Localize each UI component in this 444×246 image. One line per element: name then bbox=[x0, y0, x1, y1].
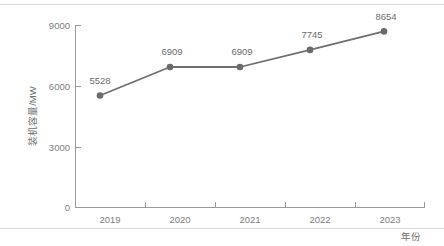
data-label-2023: 8654 bbox=[375, 11, 396, 22]
data-label-2022: 7745 bbox=[301, 29, 322, 40]
y-axis-title: 装机容量/MW bbox=[27, 86, 38, 146]
x-axis-title: 年份 bbox=[401, 231, 421, 242]
data-point-2021[interactable] bbox=[237, 64, 244, 71]
y-tick-label-6000: 6000 bbox=[49, 81, 70, 92]
x-tick-label-2023: 2023 bbox=[379, 214, 400, 225]
data-label-2019: 5528 bbox=[89, 75, 110, 86]
data-line-series bbox=[100, 31, 384, 95]
x-tick-label-2021: 2021 bbox=[239, 214, 260, 225]
data-label-2020: 6909 bbox=[161, 46, 182, 57]
data-label-2021: 6909 bbox=[231, 46, 252, 57]
x-tick-label-2019: 2019 bbox=[99, 214, 120, 225]
data-point-2022[interactable] bbox=[307, 47, 314, 54]
data-point-2019[interactable] bbox=[97, 92, 104, 99]
data-markers bbox=[97, 28, 388, 99]
x-axis-ticks bbox=[146, 202, 425, 208]
data-point-2020[interactable] bbox=[167, 64, 174, 71]
line-chart: 9000 6000 3000 0 装机容量/MW 2019 2020 2021 … bbox=[0, 0, 444, 246]
y-axis-ticks bbox=[76, 26, 82, 208]
chart-page: 9000 6000 3000 0 装机容量/MW 2019 2020 2021 … bbox=[0, 0, 444, 246]
y-tick-label-3000: 3000 bbox=[49, 142, 70, 153]
x-tick-label-2022: 2022 bbox=[309, 214, 330, 225]
x-tick-label-2020: 2020 bbox=[169, 214, 190, 225]
y-tick-label-0: 0 bbox=[65, 202, 70, 213]
y-tick-label-9000: 9000 bbox=[49, 20, 70, 31]
data-point-2023[interactable] bbox=[381, 28, 388, 35]
